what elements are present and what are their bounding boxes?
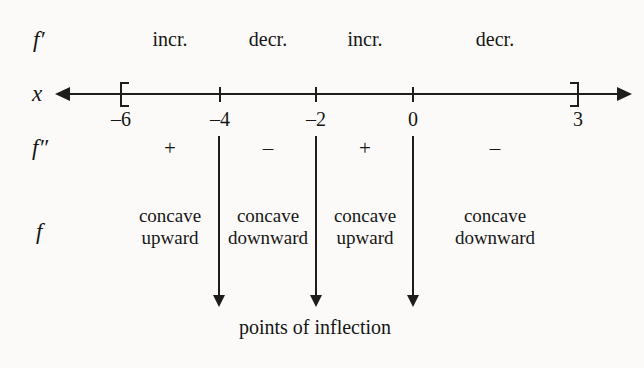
row-label-f-prime: f′ [33,28,44,51]
row-label-f-double-prime: f″ [32,136,48,159]
concavity-line-2: downward [228,227,308,249]
concavity-line-1: concave [228,205,308,227]
f-prime-behaviour-1: incr. [153,28,188,51]
f-prime-behaviour-2: decr. [249,28,287,51]
inflection-arrowhead-icon-3 [407,295,419,307]
concavity-block-3: concaveupward [334,205,396,250]
axis-tick-mark-4 [412,87,414,102]
axis-arrow-left-icon [55,87,70,101]
axis-tick-label-2: –4 [210,108,230,131]
concavity-line-2: upward [334,227,396,249]
axis-left-bracket [120,82,129,107]
concavity-block-2: concavedownward [228,205,308,250]
points-of-inflection-caption: points of inflection [239,316,391,339]
axis-line [68,93,619,95]
f-double-prime-sign-1: + [164,136,176,161]
axis-tick-label-3: –2 [306,108,326,131]
f-double-prime-sign-2: – [263,136,274,161]
inflection-divider-2 [315,136,317,295]
axis-arrow-right-icon [617,87,632,101]
axis-tick-label-4: 0 [408,108,418,131]
axis-tick-mark-3 [315,87,317,102]
inflection-divider-3 [412,136,414,295]
concavity-line-1: concave [334,205,396,227]
axis-tick-label-1: –6 [111,108,131,131]
row-label-x: x [32,82,42,105]
inflection-arrowhead-icon-2 [310,295,322,307]
row-label-f: f [36,220,42,243]
f-prime-behaviour-3: incr. [348,28,383,51]
f-prime-behaviour-4: decr. [476,28,514,51]
inflection-arrowhead-icon-1 [213,295,225,307]
concavity-block-4: concavedownward [455,205,535,250]
f-double-prime-sign-3: + [359,136,371,161]
inflection-divider-1 [218,136,220,295]
axis-right-bracket [570,82,579,107]
concavity-line-1: concave [455,205,535,227]
concavity-block-1: concaveupward [139,205,201,250]
concavity-line-1: concave [139,205,201,227]
sign-chart-figure: f′ x f″ f incr.decr.incr.decr. –6–4–203 … [0,0,644,368]
concavity-line-2: downward [455,227,535,249]
concavity-line-2: upward [139,227,201,249]
axis-tick-mark-2 [219,87,221,102]
f-double-prime-sign-4: – [490,136,501,161]
axis-tick-label-5: 3 [573,108,583,131]
